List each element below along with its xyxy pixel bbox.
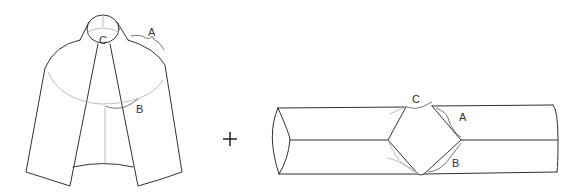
- label-b: B: [452, 157, 459, 169]
- cylinder-drawing: C A B: [272, 93, 558, 175]
- diagram-canvas: A B C C A B: [0, 0, 586, 193]
- bracket-a: [436, 108, 461, 137]
- cylinder-left-end: [272, 108, 279, 174]
- label-c: C: [412, 93, 420, 105]
- label-a: A: [459, 111, 467, 123]
- label-b: B: [136, 103, 143, 115]
- diamond-cutout: [388, 106, 461, 175]
- label-a: A: [148, 26, 156, 38]
- cape-right-panel: [110, 40, 182, 186]
- plus-operator: [223, 132, 237, 146]
- label-c: C: [99, 34, 107, 46]
- cape-drawing: A B C: [26, 15, 182, 186]
